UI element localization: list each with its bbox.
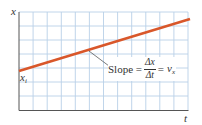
slope-annotation: Slope = Δx Δt = vx	[108, 57, 176, 81]
y-axis-label: x	[11, 6, 16, 17]
velocity-symbol-group: vx	[167, 62, 175, 76]
slope-word: Slope =	[108, 63, 142, 75]
velocity-subscript: x	[172, 68, 175, 76]
slope-pointer	[89, 51, 109, 66]
fraction-numerator: Δx	[144, 58, 156, 70]
fraction-denominator: Δt	[146, 70, 154, 81]
equals-sign: =	[158, 63, 164, 75]
delta-fraction: Δx Δt	[144, 58, 156, 80]
x-axis-label: t	[184, 113, 187, 124]
initial-position-subscript: i	[25, 77, 27, 85]
initial-position-label: xi	[20, 72, 27, 85]
